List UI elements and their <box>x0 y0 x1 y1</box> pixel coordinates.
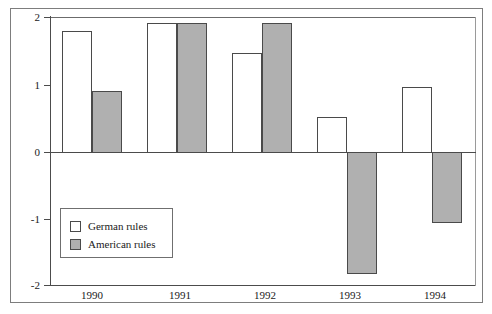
bar-german-1991[interactable] <box>147 23 177 153</box>
legend-swatch-german-icon <box>70 221 81 232</box>
x-axis-label-1991: 1991 <box>150 289 210 301</box>
y-axis-line <box>50 16 51 286</box>
bar-american-1992[interactable] <box>262 23 292 153</box>
y-axis-label-0: 0 <box>35 147 41 158</box>
x-axis-baseline <box>50 285 476 286</box>
x-axis-label-1993: 1993 <box>320 289 380 301</box>
y-axis-label-2: 2 <box>35 12 41 23</box>
bar-german-1990[interactable] <box>62 31 92 153</box>
bar-german-1993[interactable] <box>317 117 347 153</box>
x-axis-label-1994: 1994 <box>405 289 465 301</box>
legend-item-german[interactable]: German rules <box>70 219 148 233</box>
y-axis-label-1: 1 <box>35 80 41 91</box>
y-tick-neg2 <box>44 285 51 286</box>
legend-swatch-american-icon <box>70 239 81 250</box>
plot-top-rule <box>50 17 476 18</box>
bar-american-1991[interactable] <box>177 23 207 153</box>
legend-label-american: American rules <box>88 239 156 250</box>
bar-german-1992[interactable] <box>232 53 262 153</box>
legend-item-american[interactable]: American rules <box>70 237 156 251</box>
y-tick-neg1 <box>44 219 51 220</box>
bar-american-1990[interactable] <box>92 91 122 153</box>
y-tick-1 <box>44 85 51 86</box>
x-axis-label-1990: 1990 <box>62 289 122 301</box>
bar-german-1994[interactable] <box>402 87 432 153</box>
bar-american-1994[interactable] <box>432 152 462 223</box>
x-axis-label-1992: 1992 <box>235 289 295 301</box>
figure-canvas: 2 1 0 -1 -2 1990 1991 1992 1993 1994 Ger… <box>0 0 492 314</box>
bar-american-1993[interactable] <box>347 152 377 274</box>
y-axis-label-neg2: -2 <box>31 280 40 291</box>
y-axis-label-neg1: -1 <box>31 214 40 225</box>
chart-legend: German rules American rules <box>60 208 173 258</box>
legend-label-german: German rules <box>88 221 148 232</box>
y-tick-2 <box>44 17 51 18</box>
y-tick-0 <box>44 152 51 153</box>
